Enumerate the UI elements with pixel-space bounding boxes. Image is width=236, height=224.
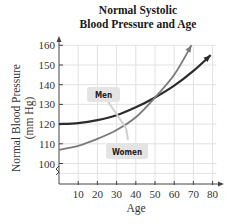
- blood-pressure-chart: Normal Systolic Blood Pressure and Age 1…: [0, 0, 236, 224]
- x-tick-label: 70: [188, 188, 200, 200]
- series-labels: MenWomen: [87, 87, 148, 159]
- women-label: Women: [112, 148, 142, 157]
- y-tick-label: 160: [39, 39, 56, 51]
- chart-title-line-1: Normal Systolic: [99, 4, 177, 17]
- y-axis-label-line-2: (mm Hg): [23, 97, 36, 140]
- chart-title-line-2: Blood Pressure and Age: [80, 18, 197, 31]
- x-tick-label: 10: [73, 188, 85, 200]
- y-tick-label: 100: [39, 158, 56, 170]
- tick-labels: 1020304050607080100110120130140150160: [39, 39, 219, 200]
- x-tick-label: 60: [169, 188, 181, 200]
- y-axis-label-line-1: Normal Blood Pressure: [10, 64, 22, 172]
- x-tick-label: 20: [92, 188, 104, 200]
- x-tick-label: 40: [130, 188, 142, 200]
- y-axis-label: Normal Blood Pressure (mm Hg): [10, 64, 36, 172]
- series: [59, 45, 211, 149]
- x-tick-label: 30: [111, 188, 123, 200]
- y-tick-label: 120: [39, 118, 56, 130]
- y-axis-arrow-icon: [57, 36, 62, 42]
- x-tick-label: 50: [150, 188, 162, 200]
- y-tick-label: 130: [39, 98, 56, 110]
- series-line-women: [59, 45, 191, 149]
- men-label: Men: [95, 91, 112, 100]
- x-axis-label: Age: [126, 202, 145, 215]
- y-tick-label: 110: [39, 138, 56, 150]
- y-tick-label: 150: [39, 59, 56, 71]
- x-tick-label: 80: [207, 188, 219, 200]
- y-tick-label: 140: [39, 79, 56, 91]
- women-callout-leader: [126, 128, 128, 140]
- x-axis-arrow-icon: [218, 182, 224, 187]
